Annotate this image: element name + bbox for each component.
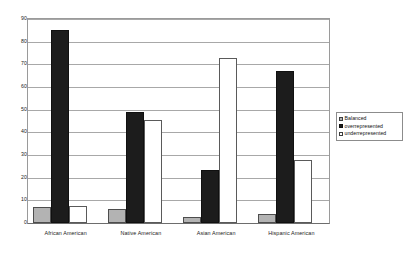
- y-tick-60: 60: [5, 84, 27, 89]
- bar-group: [179, 19, 254, 223]
- bar-overrepresented-asian-american: [201, 170, 219, 223]
- legend-label: Balanced: [345, 116, 367, 121]
- bars-layer: [28, 19, 329, 223]
- bar-underrepresented-asian-american: [219, 58, 237, 223]
- bar-underrepresented-african-american: [69, 206, 87, 223]
- y-tick-50: 50: [5, 107, 27, 112]
- bar-balanced-hispanic-american: [258, 214, 276, 223]
- bar-group: [28, 19, 103, 223]
- y-tick-10: 10: [5, 197, 27, 202]
- y-tick-40: 40: [5, 129, 27, 134]
- bar-balanced-african-american: [33, 207, 51, 223]
- bar-underrepresented-hispanic-american: [294, 160, 312, 223]
- x-label-african-american: African American: [28, 231, 103, 236]
- legend-item[interactable]: overrepresented: [339, 123, 400, 131]
- y-tick-80: 80: [5, 39, 27, 44]
- legend-label: underrepresented: [345, 131, 387, 136]
- bar-balanced-asian-american: [183, 217, 201, 223]
- bar-group: [103, 19, 178, 223]
- chart-legend: Balancedoverrepresentedunderrepresented: [336, 112, 403, 141]
- bar-overrepresented-african-american: [51, 30, 69, 223]
- y-tick-70: 70: [5, 61, 27, 66]
- y-tick-0: 0: [5, 220, 27, 225]
- x-label-asian-american: Asian American: [179, 231, 254, 236]
- x-label-hispanic-american: Hispanic American: [254, 231, 329, 236]
- bar-overrepresented-native-american: [126, 112, 144, 223]
- bar-overrepresented-hispanic-american: [276, 71, 294, 223]
- legend-swatch-icon: [339, 124, 343, 128]
- bar-balanced-native-american: [108, 209, 126, 223]
- legend-swatch-icon: [339, 117, 343, 121]
- bar-group: [254, 19, 329, 223]
- bar-chart: 0102030405060708090 African AmericanNati…: [0, 0, 411, 255]
- y-tick-30: 30: [5, 152, 27, 157]
- legend-item[interactable]: Balanced: [339, 115, 400, 123]
- legend-swatch-icon: [339, 132, 343, 136]
- legend-item[interactable]: underrepresented: [339, 130, 400, 138]
- x-label-native-american: Native American: [103, 231, 178, 236]
- y-tick-90: 90: [5, 16, 27, 21]
- legend-label: overrepresented: [345, 124, 384, 129]
- y-tick-20: 20: [5, 175, 27, 180]
- bar-underrepresented-native-american: [144, 120, 162, 223]
